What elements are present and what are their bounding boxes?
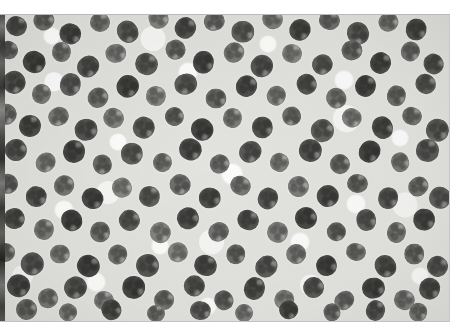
left-edge-artifact-band (0, 14, 5, 322)
micrograph-figure (0, 0, 465, 336)
micrograph-plate (0, 14, 450, 322)
vignette-overlay (0, 14, 450, 322)
